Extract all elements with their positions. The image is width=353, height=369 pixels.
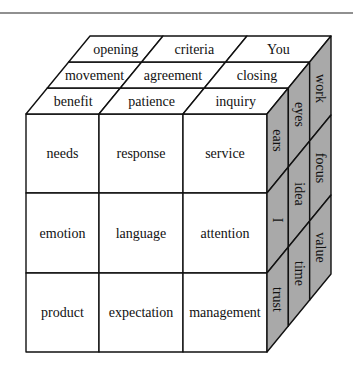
side-cell-label: idea bbox=[292, 182, 307, 206]
top-cell-label: closing bbox=[237, 68, 277, 83]
side-cell-label: focus bbox=[313, 153, 328, 183]
top-cell-label: opening bbox=[93, 42, 138, 57]
top-cell-label: benefit bbox=[54, 94, 93, 109]
front-cell-label: needs bbox=[47, 146, 79, 161]
side-cell-label: trust bbox=[270, 287, 285, 312]
top-cell-label: criteria bbox=[175, 42, 215, 57]
front-cell-label: attention bbox=[201, 226, 250, 241]
side-cell-label: value bbox=[313, 232, 328, 262]
top-cell-label: You bbox=[267, 42, 290, 57]
front-cell-label: language bbox=[116, 226, 167, 241]
side-cell-label: ears bbox=[270, 129, 285, 152]
top-cell-label: inquiry bbox=[215, 94, 255, 109]
top-cell-label: patience bbox=[128, 94, 175, 109]
front-cell-label: service bbox=[205, 146, 245, 161]
front-cell-label: expectation bbox=[109, 305, 174, 320]
front-cell-label: management bbox=[189, 305, 261, 320]
front-cell-label: product bbox=[41, 305, 84, 320]
top-cell-label: movement bbox=[65, 68, 124, 83]
front-cell-label: emotion bbox=[40, 226, 86, 241]
word-cube-diagram: needsresponseserviceemotionlanguageatten… bbox=[0, 0, 353, 369]
side-cell-label: eyes bbox=[292, 102, 307, 127]
side-cell-label: I bbox=[270, 218, 285, 223]
front-cell-label: response bbox=[117, 146, 166, 161]
side-cell-label: work bbox=[313, 74, 328, 103]
top-cell-label: agreement bbox=[144, 68, 202, 83]
side-cell-label: time bbox=[292, 261, 307, 286]
